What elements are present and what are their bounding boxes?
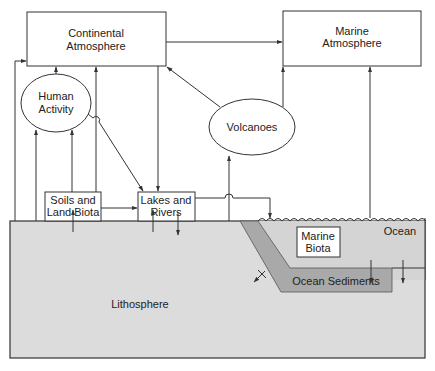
ocean-label: Ocean bbox=[384, 225, 416, 237]
human-activity-node: Human Activity bbox=[21, 74, 91, 132]
continental-atmosphere-line1: Continental bbox=[68, 27, 124, 39]
ocean-sediments-label: Ocean Sediments bbox=[292, 275, 380, 287]
marine-atmosphere-line2: Atmosphere bbox=[322, 37, 381, 49]
lakes-line2: Rivers bbox=[150, 206, 182, 218]
marine-atmosphere-line1: Marine bbox=[335, 25, 369, 37]
marine-atmosphere-box: Marine Atmosphere bbox=[283, 11, 421, 66]
marine-biota-line2: Biota bbox=[305, 242, 331, 254]
continental-atmosphere-line2: Atmosphere bbox=[66, 40, 125, 52]
lakes-line1: Lakes and bbox=[141, 194, 192, 206]
soils-line1: Soils and bbox=[50, 194, 95, 206]
lithosphere-label: Lithosphere bbox=[111, 298, 169, 310]
biogeochemical-cycle-diagram: Ocean Sediments Lithosphere Ocean Contin… bbox=[0, 0, 435, 371]
human-activity-line2: Activity bbox=[39, 103, 74, 115]
volcanoes-label: Volcanoes bbox=[227, 121, 278, 133]
lakes-rivers-box: Lakes and Rivers bbox=[138, 192, 195, 221]
marine-biota-box: Marine Biota bbox=[297, 227, 340, 257]
volcanoes-node: Volcanoes bbox=[209, 99, 295, 155]
human-activity-line1: Human bbox=[38, 90, 73, 102]
continental-atmosphere-box: Continental Atmosphere bbox=[27, 12, 166, 66]
marine-biota-line1: Marine bbox=[301, 230, 335, 242]
